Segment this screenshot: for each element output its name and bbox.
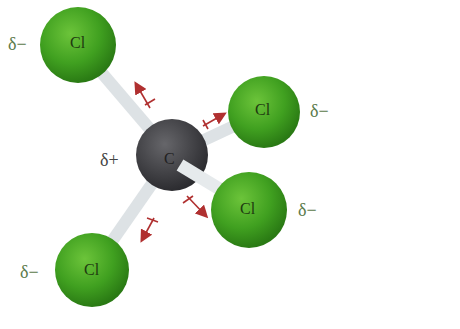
charge-label-right-upper: δ−	[310, 101, 329, 122]
charge-label-top-left: δ−	[8, 34, 27, 55]
charge-label-bottom-left: δ−	[20, 262, 39, 283]
ccl4-molecule-diagram	[0, 0, 460, 329]
chlorine-label-top-left: Cl	[70, 34, 85, 52]
carbon-label: C	[164, 150, 175, 168]
charge-label-carbon: δ+	[100, 150, 119, 171]
dipole-arrow-icon	[142, 218, 154, 240]
chlorine-label-right-lower: Cl	[240, 200, 255, 218]
dipole-arrow-icon	[136, 84, 150, 108]
chlorine-label-bottom-left: Cl	[84, 261, 99, 279]
chlorine-label-right-upper: Cl	[255, 101, 270, 119]
charge-label-right-lower: δ−	[298, 200, 317, 221]
